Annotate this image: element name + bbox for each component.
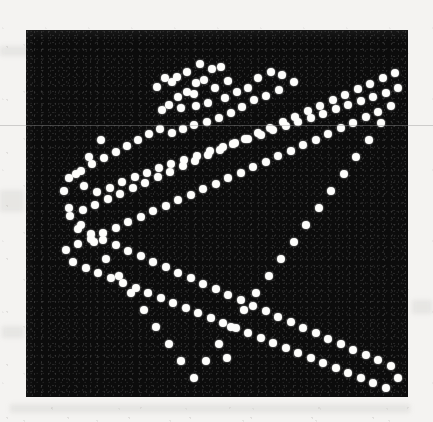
scatter-point — [249, 163, 257, 171]
scatter-point — [204, 151, 212, 159]
scatter-point — [221, 94, 229, 102]
scatter-point — [324, 130, 332, 138]
scatter-point — [374, 356, 382, 364]
scatter-point — [165, 101, 173, 109]
scatter-point — [223, 354, 231, 362]
scatter-point — [90, 238, 98, 246]
scatter-point — [104, 195, 112, 203]
scatter-point — [174, 269, 182, 277]
scatter-point — [129, 184, 137, 192]
scatter-point — [319, 110, 327, 118]
scatter-point — [203, 118, 211, 126]
scatter-point — [177, 104, 185, 112]
scatter-point — [190, 90, 198, 98]
scatter-plot-panel — [26, 30, 408, 397]
scatter-point — [340, 170, 348, 178]
scatter-point — [269, 339, 277, 347]
scatter-point — [212, 285, 220, 293]
scatter-point — [394, 374, 402, 382]
scatter-point — [153, 83, 161, 91]
scatter-point — [250, 96, 258, 104]
scatter-point — [174, 196, 182, 204]
scatter-point — [80, 182, 89, 191]
scatter-point — [88, 160, 96, 168]
scatter-point — [208, 65, 216, 73]
scatter-point — [112, 241, 120, 249]
scatter-point — [337, 124, 346, 133]
scatter-point — [99, 236, 107, 244]
scatter-point — [124, 247, 132, 255]
scatter-point — [249, 302, 257, 310]
scatter-point — [362, 351, 370, 359]
scatter-point — [387, 362, 396, 371]
scatter-point — [102, 255, 111, 264]
scatter-point — [252, 289, 260, 297]
scatter-point — [354, 85, 362, 93]
scatter-point — [107, 274, 115, 282]
scatter-point — [224, 174, 232, 182]
scatter-point — [179, 125, 187, 133]
scatter-point — [379, 74, 387, 82]
scatter-point — [291, 113, 299, 121]
scatter-point — [77, 221, 85, 229]
scatter-point — [237, 296, 245, 304]
scatter-point — [182, 304, 190, 312]
scatter-point — [167, 160, 175, 168]
scatter-point — [112, 148, 121, 157]
scatter-point — [145, 130, 153, 138]
scatter-point — [244, 84, 252, 92]
scatter-point — [349, 119, 357, 127]
scatter-point — [312, 136, 320, 144]
scatter-point — [194, 309, 202, 317]
scatter-point — [216, 146, 224, 154]
scatter-point — [97, 136, 105, 144]
scatter-point — [166, 168, 174, 176]
scatter-point — [229, 140, 237, 148]
scatter-point — [362, 113, 370, 121]
scatter-point — [244, 329, 252, 337]
scatter-point — [377, 119, 385, 127]
scatter-point — [190, 121, 198, 129]
scatter-point — [177, 357, 185, 365]
scatter-point — [294, 349, 302, 357]
scatter-point — [72, 170, 81, 179]
scatter-point — [149, 258, 157, 266]
scatter-point — [287, 147, 295, 155]
scatter-point — [100, 154, 108, 162]
scatter-point — [274, 313, 282, 321]
scatter-point — [131, 173, 139, 181]
scatter-point — [299, 324, 307, 332]
scatter-point — [316, 102, 324, 110]
scatter-point — [106, 184, 114, 192]
scatter-point — [152, 323, 160, 331]
scatter-point — [168, 129, 177, 138]
scatter-point — [202, 357, 210, 365]
scatter-point — [266, 124, 274, 132]
scatter-point — [227, 109, 236, 118]
scatter-point — [187, 191, 195, 199]
scatter-point — [199, 280, 208, 289]
scatter-point — [329, 96, 337, 104]
scatter-point — [192, 79, 200, 87]
scatter-point — [74, 240, 82, 248]
scatter-point — [240, 306, 248, 314]
scatter-point — [169, 299, 177, 307]
page-smudge-left-mid — [0, 190, 24, 212]
scatter-point — [158, 106, 167, 115]
scatter-point — [116, 190, 125, 199]
scatter-point — [374, 108, 382, 116]
scatter-point — [87, 230, 95, 238]
scatter-point — [238, 103, 246, 111]
scatter-point — [337, 340, 345, 348]
scatter-point — [162, 202, 170, 210]
scatter-point — [262, 158, 270, 166]
scatter-point — [369, 93, 377, 101]
scatter-point — [60, 187, 68, 195]
scatter-point — [274, 152, 283, 161]
scatter-point — [124, 218, 132, 226]
scatter-point — [357, 374, 365, 382]
scatter-point — [204, 99, 212, 107]
scatter-point — [168, 78, 176, 86]
scatter-point — [65, 204, 73, 212]
scatter-point — [369, 379, 377, 387]
